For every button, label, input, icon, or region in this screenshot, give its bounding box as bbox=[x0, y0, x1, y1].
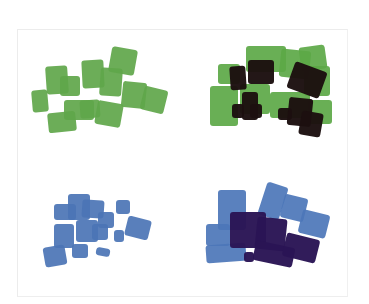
paint-swatch bbox=[72, 244, 88, 258]
paint-swatch bbox=[92, 224, 108, 240]
paint-swatch bbox=[298, 110, 324, 137]
paint-swatch bbox=[116, 200, 130, 214]
paint-swatch bbox=[248, 60, 274, 84]
paint-swatch bbox=[108, 46, 138, 76]
paint-swatch bbox=[250, 104, 262, 118]
paint-swatch bbox=[114, 230, 124, 242]
paint-swatch bbox=[244, 252, 254, 262]
paint-swatch bbox=[60, 76, 80, 96]
paint-swatch bbox=[229, 65, 247, 90]
paint-swatch bbox=[94, 100, 124, 128]
paint-swatch bbox=[54, 224, 74, 248]
